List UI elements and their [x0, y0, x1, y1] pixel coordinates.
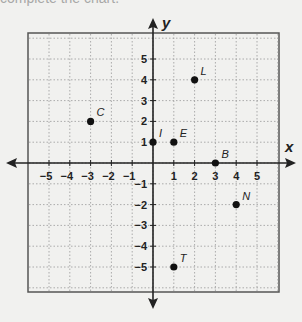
coordinate-plane: yx −5−4−3−2−112345−5−4−3−2−112345 CIELBN…: [0, 0, 302, 322]
point-t: T: [170, 252, 188, 271]
point-e: E: [170, 127, 188, 146]
svg-text:L: L: [201, 65, 207, 77]
y-tick-label: 1: [141, 136, 147, 148]
svg-text:C: C: [97, 106, 105, 118]
y-tick-label: −1: [134, 178, 147, 190]
point-i: I: [149, 127, 162, 146]
y-tick-label: −4: [134, 240, 147, 252]
x-tick-label: 5: [254, 170, 260, 182]
point-l: L: [191, 65, 207, 84]
x-tick-label: 3: [212, 170, 218, 182]
x-tick-label: 1: [171, 170, 177, 182]
y-tick-label: 2: [141, 115, 147, 127]
y-tick-label: −2: [134, 199, 147, 211]
x-tick-label: 4: [233, 170, 240, 182]
point-b: B: [212, 148, 229, 167]
point-n: N: [233, 190, 251, 209]
y-tick-label: 3: [141, 95, 147, 107]
x-tick-label: −2: [102, 170, 115, 182]
y-tick-label: 4: [141, 74, 148, 86]
svg-text:B: B: [221, 148, 228, 160]
x-tick-label: −4: [61, 170, 74, 182]
x-tick-label: −5: [40, 170, 53, 182]
x-tick-label: −3: [81, 170, 94, 182]
svg-text:E: E: [180, 127, 188, 139]
y-tick-label: −3: [134, 219, 147, 231]
svg-text:I: I: [159, 127, 162, 139]
point-c: C: [87, 106, 105, 125]
y-tick-label: 5: [141, 53, 147, 65]
svg-text:T: T: [180, 252, 188, 264]
svg-text:N: N: [242, 190, 250, 202]
x-axis-label: x: [284, 138, 294, 155]
x-tick-label: 2: [192, 170, 198, 182]
y-axis-label: y: [161, 14, 171, 31]
y-tick-label: −5: [134, 261, 147, 273]
